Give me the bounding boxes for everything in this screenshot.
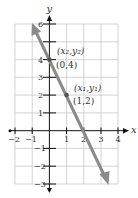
x-axis-arrow-icon — [123, 128, 129, 133]
point-1-coords-label: (1,2) — [73, 96, 94, 106]
y-tick-label: 6 — [38, 20, 43, 29]
point-2-symbolic-label: (x₂,y₂) — [57, 46, 85, 56]
y-tick-label: −2 — [34, 162, 46, 171]
y-axis-label: y — [46, 3, 53, 14]
y-tick-label: −1 — [34, 144, 46, 153]
y-axis-arrow-icon — [47, 15, 52, 21]
y-tick-label: 3 — [38, 73, 43, 82]
x-axis-label: x — [131, 124, 137, 135]
y-tick-label: 4 — [38, 56, 43, 65]
point-0-4 — [47, 57, 52, 62]
y-tick-label: 1 — [38, 109, 43, 118]
point-1-symbolic-label: (x₁,y₁) — [74, 83, 102, 93]
x-axis-left-end — [9, 129, 12, 132]
y-axis-down-arrow-icon — [47, 188, 52, 193]
x-tick-label: −1 — [25, 135, 37, 144]
x-tick-label: 1 — [64, 135, 69, 144]
x-tick-label: 4 — [116, 135, 121, 144]
x-tick-label: 3 — [99, 135, 104, 144]
coordinate-plane: −2 −1 1 2 3 4 6 4 3 2 1 −1 −2 −3 x y (x₂… — [0, 0, 138, 198]
point-2-coords-label: (0,4) — [56, 60, 77, 70]
x-tick-label: −2 — [8, 135, 20, 144]
point-1-2 — [64, 93, 69, 98]
y-tick-label: 2 — [38, 91, 43, 100]
y-tick-label: −3 — [34, 180, 46, 189]
